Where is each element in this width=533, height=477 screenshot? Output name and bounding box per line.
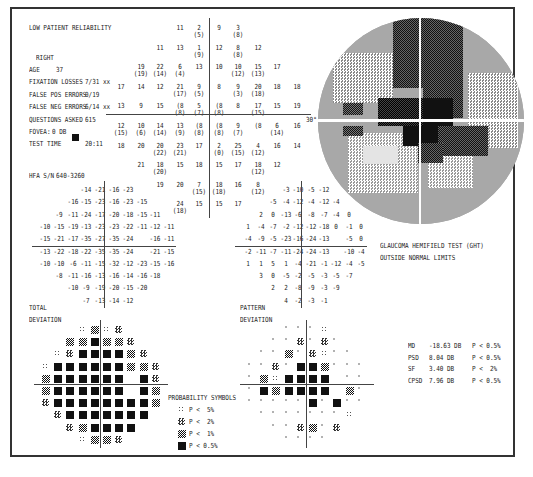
grid-cell: -32 xyxy=(106,261,121,268)
prob-black-box-icon xyxy=(103,350,111,358)
threshold-cell: 19 (19) xyxy=(133,64,148,78)
total-deviation-label-1: TOTAL xyxy=(29,304,47,312)
threshold-cell: 14 (14) xyxy=(152,123,167,137)
threshold-cell: 18 (20) xyxy=(152,162,167,176)
prob-vertical-axis xyxy=(306,320,307,448)
threshold-cell: 20 (22) xyxy=(152,143,167,157)
prob-heavy-checker-icon xyxy=(91,436,99,444)
prob-horizontal-axis xyxy=(34,384,168,385)
prob-black-box-icon xyxy=(115,411,123,419)
header-field-label: FALSE NEG ERRORS xyxy=(29,103,86,111)
map-region xyxy=(333,53,393,103)
threshold-cell: 22 (14) xyxy=(152,64,167,78)
prob-black-box-icon xyxy=(309,399,317,407)
index-p: P < 0.5% xyxy=(472,354,501,362)
grid-cell: 0 xyxy=(341,212,356,219)
prob-black-box-icon xyxy=(66,375,74,383)
threshold-cell: 15 xyxy=(191,201,206,208)
prob-black-box-icon xyxy=(115,424,123,432)
grid-cell: -20 xyxy=(106,212,121,219)
prob-checker-icon xyxy=(333,424,340,431)
prob-black-box-icon xyxy=(103,424,111,432)
threshold-vertical-axis xyxy=(209,18,210,218)
prob-heavy-checker-icon xyxy=(103,338,111,346)
prob-heavy-checker-icon xyxy=(42,387,50,395)
threshold-cell: 11 xyxy=(152,45,167,52)
prob-black-box-icon xyxy=(115,399,123,407)
prob-black-box-icon xyxy=(79,350,87,358)
grid-cell: 0 xyxy=(354,236,369,243)
prob-black-box-icon xyxy=(260,387,268,395)
prob-black-box-icon xyxy=(91,399,99,407)
threshold-cell: (8 (8) xyxy=(211,123,226,137)
prob-black-box-icon xyxy=(103,399,111,407)
prob-black-box-icon xyxy=(91,411,99,419)
threshold-cell: 15 xyxy=(211,162,226,169)
prob-checker-icon xyxy=(272,363,279,370)
map-region xyxy=(343,126,363,136)
prob-checker-icon xyxy=(66,424,73,431)
prob-heavy-checker-icon xyxy=(66,338,74,346)
threshold-cell: 8 xyxy=(230,103,245,110)
prob-black-box-icon xyxy=(103,375,111,383)
threshold-cell: 8 xyxy=(211,84,226,91)
legend-symbol-icon xyxy=(178,430,186,438)
prob-dots-icon xyxy=(321,350,327,356)
index-value: 8.04 DB xyxy=(429,354,454,362)
threshold-cell: 9 (7) xyxy=(230,123,245,137)
threshold-cell: (8 xyxy=(250,123,265,130)
header-field-label: TEST TIME xyxy=(29,140,61,148)
legend-label: P < 0.5% xyxy=(189,442,218,450)
grid-cell: -24 xyxy=(120,236,135,243)
prob-heavy-checker-icon xyxy=(346,387,354,395)
prob-checker-icon xyxy=(321,338,328,345)
index-p: P < 0.5% xyxy=(472,342,501,350)
prob-heavy-checker-icon xyxy=(285,350,293,358)
header-field-value: 0 DB xyxy=(52,128,66,136)
normal-point-icon xyxy=(285,399,287,401)
prob-checker-icon xyxy=(152,375,159,382)
pattern-deviation-label-1: PATTERN xyxy=(240,304,265,312)
threshold-cell: 9 xyxy=(133,103,148,110)
prob-black-box-icon xyxy=(115,350,123,358)
threshold-cell: 19 xyxy=(152,182,167,189)
prob-heavy-checker-icon xyxy=(272,387,280,395)
prob-horizontal-axis xyxy=(240,384,374,385)
normal-point-icon xyxy=(285,338,287,340)
prob-heavy-checker-icon xyxy=(152,399,160,407)
legend-label: P < 2% xyxy=(189,418,214,426)
prob-dots-icon xyxy=(79,326,85,332)
threshold-cell: 15 xyxy=(172,162,187,169)
normal-point-icon xyxy=(285,326,287,328)
prob-checker-icon xyxy=(42,399,49,406)
prob-checker-icon xyxy=(140,350,147,357)
threshold-cell: 23 (21) xyxy=(172,143,187,157)
prob-heavy-checker-icon xyxy=(115,338,123,346)
prob-checker-icon xyxy=(152,363,159,370)
prob-black-box-icon xyxy=(140,375,148,383)
threshold-cell: 21 xyxy=(133,162,148,169)
grid-cell: -10 xyxy=(37,261,52,268)
index-p: P < 0.5% xyxy=(472,377,501,385)
prob-black-box-icon xyxy=(91,424,99,432)
grid-cell: -15 xyxy=(51,224,66,231)
total-deviation-label-2: DEVIATION xyxy=(29,316,61,324)
grid-cell: -10 xyxy=(37,224,52,231)
prob-black-box-icon xyxy=(321,375,329,383)
prob-black-box-icon xyxy=(140,399,148,407)
prob-black-box-icon xyxy=(297,375,305,383)
reliability-warning: LOW PATIENT RELIABILITY xyxy=(29,24,111,32)
normal-point-icon xyxy=(285,363,287,365)
map-region xyxy=(438,126,488,156)
grid-cell: -9 xyxy=(51,212,66,219)
prob-vertical-axis xyxy=(100,320,101,448)
index-name: MD xyxy=(408,342,415,350)
grid-cell: -16 xyxy=(106,273,121,280)
map-region xyxy=(343,103,363,115)
prob-heavy-checker-icon xyxy=(321,363,329,371)
threshold-cell: 11 xyxy=(172,25,187,32)
prob-heavy-checker-icon xyxy=(79,338,87,346)
threshold-cell: 16 xyxy=(230,182,245,189)
threshold-cell: 14 xyxy=(289,143,304,150)
index-name: CPSD xyxy=(408,377,422,385)
